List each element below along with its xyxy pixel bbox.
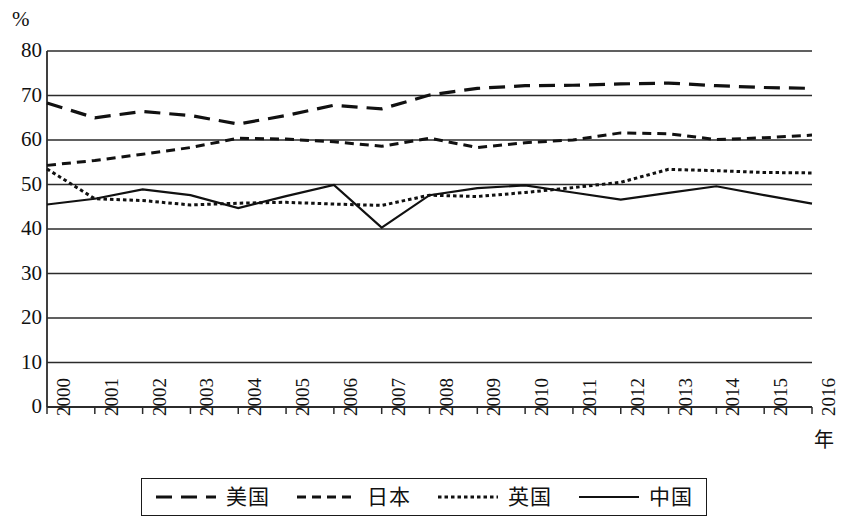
x-axis-tick-label: 2011 [580, 379, 599, 416]
x-axis-tick-labels: 2000200120022003200420052006200720082009… [0, 0, 847, 516]
legend-label: 中国 [649, 487, 693, 508]
legend-swatch-dotted [437, 491, 499, 503]
x-axis-tick-label: 2016 [819, 378, 838, 416]
x-axis-tick-label: 2001 [102, 378, 121, 416]
legend-item: 日本 [296, 487, 411, 508]
x-axis-tick-label: 2003 [197, 378, 216, 416]
chart-legend: 美国日本英国中国 [141, 478, 707, 516]
x-axis-tick-label: 2009 [484, 378, 503, 416]
x-axis-tick-label: 2012 [628, 378, 647, 416]
x-axis-tick-label: 2014 [723, 378, 742, 416]
legend-label: 日本 [367, 487, 411, 508]
x-axis-tick-label: 2002 [150, 378, 169, 416]
legend-swatch-long-dash [155, 491, 217, 503]
legend-item: 中国 [578, 487, 693, 508]
x-axis-tick-label: 2005 [293, 378, 312, 416]
x-axis-tick-label: 2015 [771, 378, 790, 416]
legend-item: 美国 [155, 487, 270, 508]
legend-swatch-solid [578, 491, 640, 503]
legend-swatch-medium-dash [296, 491, 358, 503]
x-axis-tick-label: 2013 [676, 378, 695, 416]
legend-item: 英国 [437, 487, 552, 508]
x-axis-tick-label: 2010 [532, 378, 551, 416]
x-axis-tick-label: 2000 [54, 378, 73, 416]
x-axis-tick-label: 2006 [341, 378, 360, 416]
x-axis-tick-label: 2004 [245, 378, 264, 416]
legend-label: 美国 [226, 487, 270, 508]
line-chart: % 年 01020304050607080 200020012002200320… [0, 0, 847, 516]
legend-label: 英国 [508, 487, 552, 508]
x-axis-tick-label: 2007 [389, 378, 408, 416]
x-axis-tick-label: 2008 [437, 378, 456, 416]
